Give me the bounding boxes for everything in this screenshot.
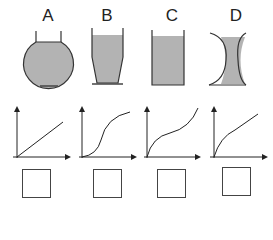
graph-c <box>144 108 198 158</box>
answer-box-d[interactable] <box>222 167 251 196</box>
answer-box-b[interactable] <box>93 169 122 198</box>
graph-d <box>210 109 265 158</box>
vessel-c <box>152 30 184 85</box>
vessel-a <box>24 31 74 89</box>
vessel-b <box>92 28 123 84</box>
graph-b <box>79 109 134 158</box>
vessel-d <box>209 33 246 85</box>
graph-a <box>13 109 68 158</box>
answer-box-a[interactable] <box>22 169 51 198</box>
answer-box-c[interactable] <box>157 169 186 198</box>
